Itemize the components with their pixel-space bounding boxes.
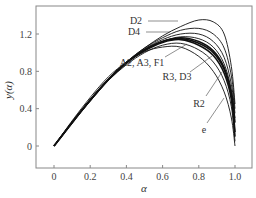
curve-annotation: D2 [130, 15, 142, 26]
y-tick-label: 0.4 [20, 103, 33, 114]
curve-annotation: A2, A3, F1 [120, 57, 164, 68]
curve-annotation: R2 [193, 98, 205, 109]
curve-d2 [54, 20, 235, 146]
x-tick-label: 0.2 [84, 171, 97, 182]
curve-annotation: e [202, 124, 207, 135]
chart: 00.20.40.60.81.000.40.81.2 D2D4A2, A3, F… [0, 0, 256, 198]
x-tick-label: 0 [52, 171, 57, 182]
curve-annotation: D4 [128, 26, 140, 37]
leader-line [207, 98, 224, 123]
y-tick-label: 0 [27, 141, 32, 152]
x-tick-label: 0.8 [193, 171, 206, 182]
y-axis-label: y(α) [2, 81, 15, 100]
curve-annotation: R3, D3 [163, 71, 192, 82]
plot-frame [36, 6, 252, 168]
curve-a2 [54, 38, 235, 146]
curve-a3 [54, 39, 235, 146]
x-tick-label: 0.4 [120, 171, 133, 182]
x-axis-label: α [141, 182, 147, 194]
curves [54, 20, 235, 146]
x-tick-label: 1.0 [229, 171, 242, 182]
y-tick-label: 0.8 [20, 66, 33, 77]
x-tick-label: 0.6 [156, 171, 169, 182]
leader-line [206, 72, 222, 96]
y-tick-label: 1.2 [20, 29, 33, 40]
